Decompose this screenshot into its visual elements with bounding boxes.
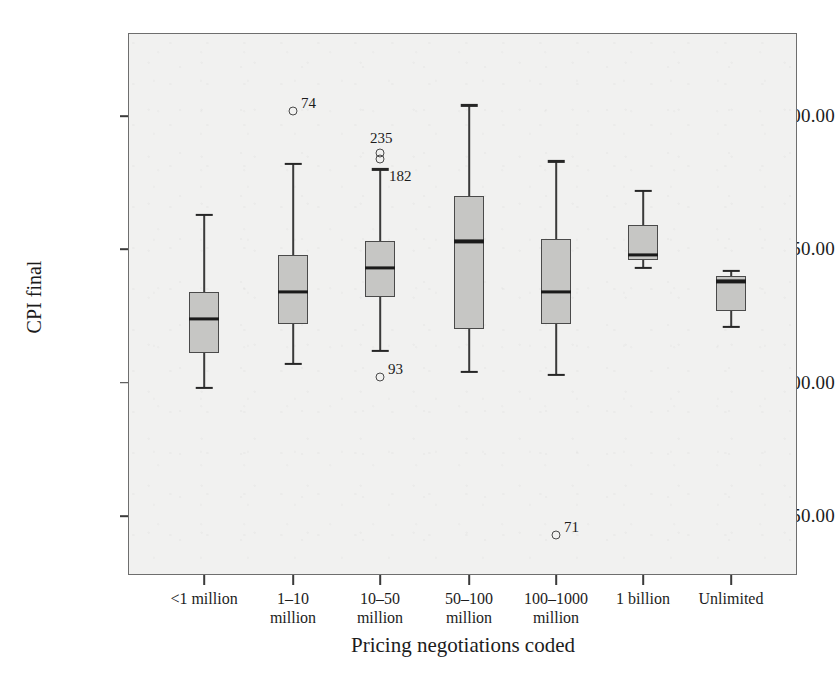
- whisker-lower: [730, 311, 732, 327]
- whisker-upper: [555, 161, 557, 238]
- whisker-cap-upper: [723, 270, 740, 272]
- median-line: [189, 317, 219, 320]
- x-axis-tick-label: 1–10million: [270, 589, 316, 627]
- x-axis-tick-label: <1 million: [170, 589, 237, 608]
- outlier-point: [376, 373, 385, 382]
- whisker-cap-lower: [372, 350, 389, 352]
- whisker-upper: [468, 105, 470, 196]
- x-axis-tick-mark: [468, 575, 470, 585]
- whisker-cap-lower: [285, 363, 302, 365]
- outlier-point: [552, 530, 561, 539]
- outlier-label: 74: [301, 94, 316, 111]
- x-axis-tick-mark: [555, 575, 557, 585]
- whisker-upper: [203, 215, 205, 292]
- box-iqr: [189, 292, 219, 353]
- outlier-point: [376, 154, 385, 163]
- whisker-upper: [292, 164, 294, 255]
- outlier-point: [289, 106, 298, 115]
- outlier-label: 182: [389, 167, 412, 184]
- median-line: [541, 290, 571, 293]
- box-iqr: [278, 255, 308, 324]
- whisker-lower: [203, 353, 205, 388]
- y-axis-tick-mark: [120, 515, 128, 517]
- x-axis-title: Pricing negotiations coded: [351, 633, 575, 658]
- outlier-label: 71: [564, 518, 579, 535]
- y-axis-tick-mark: [120, 249, 128, 251]
- whisker-cap-upper: [635, 190, 652, 192]
- x-axis-tick-label: 10–50million: [357, 589, 403, 627]
- x-axis-tick-mark: [379, 575, 381, 585]
- whisker-lower: [468, 329, 470, 372]
- median-line: [716, 280, 746, 283]
- median-line: [278, 290, 308, 293]
- whisker-upper: [642, 191, 644, 226]
- x-axis-tick-mark: [292, 575, 294, 585]
- whisker-cap-lower: [196, 387, 213, 389]
- median-line: [454, 240, 484, 243]
- outlier-label: 235: [370, 130, 393, 147]
- x-axis-tick-label: 100–1000million: [524, 589, 588, 627]
- y-axis-tick-mark: [120, 115, 128, 117]
- whisker-cap-lower: [723, 326, 740, 328]
- whisker-cap-upper: [548, 160, 565, 162]
- whisker-lower: [379, 297, 381, 350]
- whisker-cap-upper: [196, 214, 213, 216]
- x-axis-tick-label: 1 billion: [616, 589, 670, 608]
- whisker-cap-lower: [635, 267, 652, 269]
- whisker-cap-upper: [285, 163, 302, 165]
- x-axis-tick-mark: [730, 575, 732, 585]
- whisker-cap-upper: [461, 104, 478, 106]
- outlier-label: 93: [388, 361, 403, 378]
- whisker-cap-lower: [461, 371, 478, 373]
- x-axis-tick-mark: [203, 575, 205, 585]
- whisker-lower: [555, 324, 557, 375]
- median-line: [365, 266, 395, 269]
- whisker-upper: [379, 169, 381, 241]
- median-line: [628, 253, 658, 256]
- y-axis-title: CPI final: [23, 261, 46, 334]
- x-axis-tick-mark: [642, 575, 644, 585]
- whisker-cap-upper: [372, 168, 389, 170]
- whisker-lower: [292, 324, 294, 364]
- boxplot-figure: CPI final 250.00300.00350.00400.00 74235…: [0, 0, 835, 678]
- x-axis-tick-label: Unlimited: [699, 589, 764, 608]
- box-iqr: [454, 196, 484, 329]
- whisker-cap-lower: [548, 374, 565, 376]
- box-iqr: [541, 239, 571, 324]
- y-axis-tick-mark: [120, 382, 128, 384]
- x-axis-tick-label: 50–100million: [445, 589, 493, 627]
